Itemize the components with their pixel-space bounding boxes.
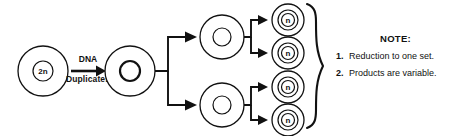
product-cell-ploidy-label: n xyxy=(286,49,291,58)
parent-cell-ploidy-label: 2n xyxy=(38,67,47,76)
second-division-branch-top xyxy=(244,15,268,58)
note-list-item: 2. Products are variable. xyxy=(336,68,473,79)
first-division-lower-arrow-head xyxy=(185,100,197,111)
products-grouping-brace xyxy=(307,4,323,128)
dna-duplicates-label-line1: DNA xyxy=(79,54,98,64)
intermediate-cell-bottom xyxy=(200,83,244,127)
second-division-bottom-upper-arrow-head xyxy=(258,82,268,92)
second-division-top-lower-branch xyxy=(251,37,259,53)
second-division-top-upper-arrow-head xyxy=(258,15,268,25)
duplicated-cell xyxy=(105,46,155,96)
second-division-top-upper-branch xyxy=(244,20,259,37)
first-division-branch xyxy=(155,32,197,111)
second-division-bottom-upper-branch xyxy=(244,87,259,105)
intermediate-cell-top xyxy=(200,15,244,59)
product-cell-ploidy-label: n xyxy=(286,83,291,92)
intermediate-cell-bottom-nucleus xyxy=(213,96,231,114)
note-list: 1. Reduction to one set. 2. Products are… xyxy=(336,51,473,79)
intermediate-cell-top-nucleus xyxy=(213,28,231,46)
note-item-text: Products are variable. xyxy=(349,68,437,79)
product-cell: n xyxy=(272,71,304,103)
second-division-top-lower-arrow-head xyxy=(258,48,268,58)
first-division-upper-arrow-head xyxy=(185,32,197,43)
product-cell: n xyxy=(272,37,304,69)
second-division-branch-bottom xyxy=(244,82,268,125)
duplicated-cell-nucleus xyxy=(120,61,140,81)
second-division-bottom-lower-branch xyxy=(251,105,259,120)
note-title: NOTE: xyxy=(336,33,473,44)
product-cell-ploidy-label: n xyxy=(286,116,291,125)
note-block: NOTE: 1. Reduction to one set. 2. Produc… xyxy=(336,33,473,85)
second-division-bottom-lower-arrow-head xyxy=(258,115,268,125)
note-item-number: 1. xyxy=(336,51,349,62)
note-item-number: 2. xyxy=(336,68,349,79)
product-cell: n xyxy=(272,104,304,136)
first-division-lower-branch xyxy=(168,71,186,105)
note-item-text: Reduction to one set. xyxy=(349,51,434,62)
parent-cell: 2n xyxy=(18,46,68,96)
first-division-upper-branch xyxy=(155,37,186,71)
dna-duplicates-label-line2: Duplicates xyxy=(66,74,110,84)
product-cell: n xyxy=(272,4,304,36)
note-list-item: 1. Reduction to one set. xyxy=(336,51,473,62)
product-cell-ploidy-label: n xyxy=(286,16,291,25)
diagram-canvas: 2n DNA Duplicates xyxy=(0,0,473,136)
